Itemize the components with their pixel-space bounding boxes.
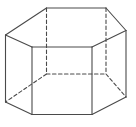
hidden-edge-bot_back_left-bot_left [6, 74, 47, 102]
visible-edge-top_left-top_back_left [6, 8, 47, 35]
visible-edge-top_right-top_front_right [92, 31, 126, 48]
hidden-edges-group [6, 8, 127, 102]
visible-edge-top_front_left-top_left [6, 35, 33, 47]
hexagonal-prism-diagram [0, 0, 136, 127]
visible-edges-group [6, 8, 127, 115]
visible-edge-top_back_right-top_right [106, 8, 126, 31]
visible-edge-bot_front_right-bot_right [92, 97, 126, 115]
visible-edge-bot_left-bot_front_left [6, 102, 33, 115]
hidden-edge-bot_back_right-bot_right [106, 74, 126, 97]
